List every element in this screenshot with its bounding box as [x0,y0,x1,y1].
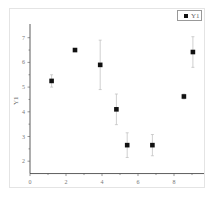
y-axis-title: Y1 [12,96,20,105]
y-tick-label: 6 [22,59,25,65]
x-tick-label: 2 [65,179,68,185]
data-point-square-marker-icon [191,50,196,55]
x-tick-label: 0 [29,179,32,185]
y-tick-label: 3 [22,134,25,140]
data-point-square-marker-icon [98,63,103,68]
scatter-chart: 23456702468Y1 [0,0,210,197]
y-tick-label: 2 [22,158,25,164]
data-point-square-marker-icon [49,79,54,84]
data-point-square-marker-icon [125,143,130,148]
data-point-square-marker-icon [73,48,78,53]
legend: Y1 [177,10,202,21]
x-tick-label: 8 [173,179,176,185]
data-point-square-marker-icon [182,94,187,99]
y-tick-label: 5 [22,84,25,90]
data-point-square-marker-icon [150,143,155,148]
data-point-square-marker-icon [114,107,119,112]
y-tick-label: 7 [22,35,25,41]
y-tick-label: 4 [22,109,25,115]
x-tick-label: 4 [101,179,104,185]
legend-label: Y1 [191,11,200,21]
x-tick-label: 6 [137,179,140,185]
legend-square-marker-icon [184,14,188,18]
